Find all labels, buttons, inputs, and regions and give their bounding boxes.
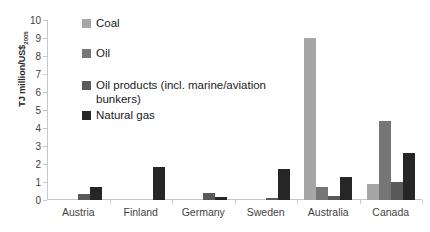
y-axis-title-subscript: 2005	[23, 31, 29, 44]
bar-group	[235, 20, 298, 200]
bar	[78, 194, 90, 200]
legend-label: Coal	[96, 17, 120, 31]
y-axis-tick-label: 4	[35, 123, 41, 134]
bar	[203, 193, 215, 200]
legend-swatch-icon	[82, 81, 91, 90]
bar	[340, 177, 352, 200]
bar	[316, 187, 328, 200]
x-axis-category-label: Finland	[110, 206, 173, 218]
y-axis-tick-mark	[43, 200, 47, 201]
bar	[266, 198, 278, 200]
bar	[391, 182, 403, 200]
bar	[304, 38, 316, 200]
x-axis-category-label: Canada	[360, 206, 423, 218]
x-axis-tick-mark	[422, 200, 423, 204]
y-axis-title: TJ million/US$2005	[17, 9, 31, 129]
bar-group	[172, 20, 235, 200]
legend-item: Oil	[82, 47, 110, 61]
x-axis-tick-mark	[110, 200, 111, 204]
bar	[367, 184, 379, 200]
legend-swatch-icon	[82, 111, 91, 120]
y-axis-title-base: TJ million/US$	[17, 45, 27, 107]
bar-chart: TJ million/US$2005 012345678910 AustriaF…	[0, 0, 430, 232]
y-axis-tick-label: 6	[35, 87, 41, 98]
y-axis-tick-label: 10	[30, 15, 41, 26]
bar-group	[360, 20, 423, 200]
x-axis-tick-mark	[235, 200, 236, 204]
y-axis-tick-label: 5	[35, 105, 41, 116]
y-axis-tick-label: 3	[35, 141, 41, 152]
x-axis-category-label: Sweden	[235, 206, 298, 218]
bar	[379, 121, 391, 200]
legend-item: Oil products (incl. marine/aviation bunk…	[82, 79, 266, 106]
bar	[90, 187, 102, 200]
bar	[215, 197, 227, 200]
x-axis-category-label: Australia	[297, 206, 360, 218]
y-axis-tick-label: 1	[35, 177, 41, 188]
bar	[278, 169, 290, 200]
y-axis-tick-label: 8	[35, 51, 41, 62]
legend-swatch-icon	[82, 49, 91, 58]
legend-item: Coal	[82, 17, 120, 31]
bar	[403, 153, 415, 200]
y-axis-tick-label: 7	[35, 69, 41, 80]
legend-label: Oil	[96, 47, 110, 61]
bar	[153, 167, 165, 200]
y-axis-tick-label: 0	[35, 195, 41, 206]
bar	[328, 196, 340, 201]
y-axis-tick-label: 2	[35, 159, 41, 170]
x-axis-category-label: Austria	[47, 206, 110, 218]
x-axis-tick-mark	[172, 200, 173, 204]
legend-label: Oil products (incl. marine/aviation bunk…	[96, 79, 266, 106]
x-axis-tick-mark	[297, 200, 298, 204]
bar-group	[297, 20, 360, 200]
legend-swatch-icon	[82, 19, 91, 28]
legend-item: Natural gas	[82, 109, 155, 123]
legend-label: Natural gas	[96, 109, 155, 123]
y-axis-tick-label: 9	[35, 33, 41, 44]
x-axis-category-label: Germany	[172, 206, 235, 218]
x-axis-tick-mark	[360, 200, 361, 204]
